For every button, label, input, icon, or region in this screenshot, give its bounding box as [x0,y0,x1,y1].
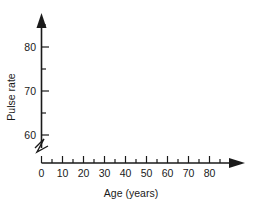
y-axis-title: Pulse rate [5,73,17,120]
y-tick-label-60: 60 [24,129,36,141]
x-tick-label-0: 0 [39,167,45,179]
x-tick-label-50: 50 [141,167,153,179]
x-tick-label-70: 70 [183,167,195,179]
x-axis-title: Age (years) [104,187,158,199]
x-axis-group: 0 10 20 30 40 50 60 70 80 Age (years) [39,156,245,199]
y-axis-group: 80 70 60 Pulse rate [5,13,49,152]
x-tick-label-30: 30 [99,167,111,179]
y-axis-arrow-icon [37,13,47,28]
x-tick-label-10: 10 [57,167,69,179]
y-tick-label-70: 70 [24,85,36,97]
x-axis-arrow-icon [229,158,245,168]
x-tick-label-80: 80 [204,167,216,179]
y-tick-label-80: 80 [24,41,36,53]
x-tick-label-40: 40 [120,167,132,179]
x-tick-label-60: 60 [162,167,174,179]
pulse-rate-vs-age-chart: 80 70 60 Pulse rate [0,0,259,209]
chart-container: 80 70 60 Pulse rate [0,0,259,209]
x-tick-label-20: 20 [78,167,90,179]
